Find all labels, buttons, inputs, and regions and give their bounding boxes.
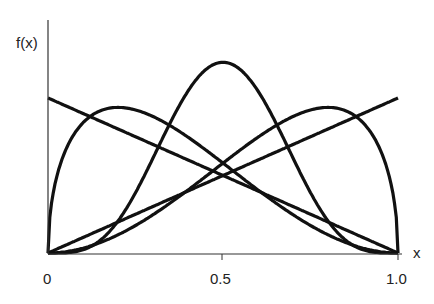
curves bbox=[48, 62, 398, 253]
x-tick-label-1.0: 1.0 bbox=[386, 270, 407, 287]
curve-symmetric-bell bbox=[48, 62, 398, 253]
chart: f(x) x 0 0.5 1.0 bbox=[0, 0, 434, 304]
x-tick-label-0.5: 0.5 bbox=[210, 270, 231, 287]
x-axis-label: x bbox=[413, 244, 421, 261]
x-tick-label-0: 0 bbox=[43, 270, 51, 287]
y-axis-label: f(x) bbox=[16, 34, 38, 51]
